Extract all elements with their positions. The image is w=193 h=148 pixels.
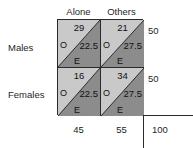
expected-value: 22.5 [80, 88, 99, 99]
column-total-others: 55 [100, 124, 143, 135]
table-cell-males-others: 21 O 27.5 E [101, 20, 144, 68]
expected-label: E [117, 56, 123, 66]
contingency-table-figure: Alone Others Males Females 29 O 22.5 E 2… [0, 0, 193, 148]
observed-value: 34 [101, 70, 144, 81]
expected-label: E [74, 105, 80, 115]
expected-value: 27.5 [124, 88, 143, 99]
observed-value: 21 [101, 22, 144, 33]
column-total-alone: 45 [57, 124, 100, 135]
expected-label: E [74, 56, 80, 66]
column-header-alone: Alone [57, 6, 100, 17]
grand-total-vertical-rule [143, 115, 144, 148]
row-total-females: 50 [148, 73, 159, 84]
grand-total-horizontal-rule [143, 115, 193, 116]
expected-value: 27.5 [124, 40, 143, 51]
row-total-males: 50 [148, 25, 159, 36]
table-grid: 29 O 22.5 E 21 O 27.5 E 16 O 22.5 E [57, 19, 143, 115]
expected-label: E [117, 105, 123, 115]
observed-value: 16 [58, 70, 100, 81]
row-label-females: Females [8, 89, 64, 100]
observed-label: O [103, 88, 110, 98]
observed-label: O [60, 88, 67, 98]
observed-value: 29 [58, 22, 100, 33]
observed-label: O [60, 40, 67, 50]
observed-label: O [103, 40, 110, 50]
table-cell-females-alone: 16 O 22.5 E [58, 68, 101, 116]
expected-value: 22.5 [80, 40, 99, 51]
column-header-others: Others [100, 6, 143, 17]
row-label-males: Males [8, 42, 56, 53]
table-cell-males-alone: 29 O 22.5 E [58, 20, 101, 68]
table-cell-females-others: 34 O 27.5 E [101, 68, 144, 116]
grand-total: 100 [152, 124, 168, 135]
